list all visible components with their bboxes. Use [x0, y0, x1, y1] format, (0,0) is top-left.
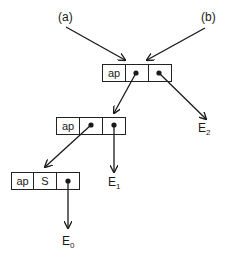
label-e2: E2 [198, 122, 210, 136]
node-top-cell-tag: ap [102, 64, 126, 82]
node-bottom-cell-s: S [33, 172, 57, 190]
label-e1-base: E [108, 175, 116, 189]
label-a: (a) [58, 11, 73, 23]
node-middle-cell-right-pointer [102, 117, 126, 135]
label-e0-base: E [62, 234, 70, 248]
label-e0: E0 [62, 235, 74, 249]
label-e1-sub: 1 [116, 182, 120, 191]
node-top-cell-left-pointer [125, 64, 149, 82]
label-e0-sub: 0 [70, 241, 74, 250]
label-e1: E1 [108, 176, 120, 190]
arrow-a-to-top [66, 27, 125, 60]
label-b: (b) [201, 11, 216, 23]
node-bottom-cell-pointer [56, 172, 80, 190]
label-e2-base: E [198, 121, 206, 135]
label-e2-sub: 2 [206, 128, 210, 137]
node-bottom-cell-tag: ap [11, 172, 34, 190]
arrow-b-to-top [147, 28, 205, 60]
node-middle-cell-tag: ap [56, 117, 80, 135]
node-top-cell-right-pointer [148, 64, 172, 82]
node-middle-cell-left-pointer [79, 117, 103, 135]
